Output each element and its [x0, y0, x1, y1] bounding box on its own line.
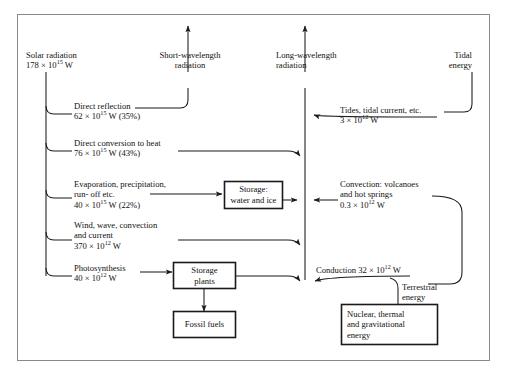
- solar-radiation-value: 178 × 1015 W: [26, 60, 73, 70]
- box-label-storage-water-ice: Storage:water and ice: [225, 182, 282, 208]
- label-convection: Convection: volcanoes and hot springs 0.…: [340, 179, 419, 210]
- conduction-value: Conduction 32 × 1012 W: [316, 265, 401, 275]
- label-evaporation: Evaporation, precipitation, run- off etc…: [74, 179, 166, 210]
- branch-evaporation: [46, 190, 72, 198]
- feed-plants-longwave: [236, 276, 300, 281]
- tidal-trunk: [444, 72, 472, 112]
- direct-conversion-value: 76 × 1015 W (43%): [74, 148, 140, 158]
- label-conduction: Conduction 32 × 1012 W: [316, 265, 401, 275]
- figure-root: Solar radiation 178 × 1015 W Short-wavel…: [0, 0, 507, 390]
- label-photosynthesis: Photosynthesis 40 × 1012 W: [74, 263, 126, 284]
- box-label-nuclear-thermal-grav: Nuclear, thermaland gravitationalenergy: [342, 305, 437, 344]
- label-terrestrial-energy: Terrestrial energy: [402, 282, 437, 303]
- branch-wind-wave: [46, 232, 72, 240]
- box-label-fossil-fuels: Fossil fuels: [174, 312, 235, 337]
- branch-direct-conversion: [46, 143, 72, 151]
- label-direct-conversion-to-heat: Direct conversion to heat 76 × 1015 W (4…: [74, 138, 161, 159]
- conduction-into-longwave: [315, 276, 410, 281]
- label-tides: Tides, tidal current, etc. 3 × 1012 W: [340, 105, 421, 126]
- box-label-storage-plants: Storageplants: [174, 263, 235, 288]
- photosynthesis-value: 40 × 1012 W: [74, 273, 117, 283]
- convection-value: 0.3 × 1012 W: [340, 200, 385, 210]
- short-wave-feed: [135, 88, 188, 108]
- label-wind-wave: Wind, wave, convection and current 370 ×…: [74, 220, 157, 251]
- evaporation-value: 40 × 1015 W (22%): [74, 200, 140, 210]
- label-long-wavelength-radiation: Long-wavelength radiation: [276, 50, 337, 71]
- label-short-wavelength-radiation: Short-wavelength radiation: [148, 50, 232, 71]
- label-solar-radiation: Solar radiation 178 × 1015 W: [26, 50, 77, 71]
- tides-value: 3 × 1012 W: [340, 115, 378, 125]
- wind-wave-value: 370 × 1012 W: [74, 241, 121, 251]
- feed-direct-conversion-longwave: [178, 151, 300, 156]
- branch-photosynthesis: [46, 268, 72, 276]
- convection-loop: [428, 196, 462, 284]
- direct-reflection-value: 62 × 1015 W (35%): [74, 111, 140, 121]
- label-direct-reflection: Direct reflection 62 × 1015 W (35%): [74, 101, 140, 122]
- feed-windwave-longwave: [178, 240, 300, 245]
- branch-direct-reflection: [46, 106, 72, 114]
- label-tidal-energy: Tidal energy: [412, 50, 472, 71]
- terrestrial-riser: [390, 278, 398, 304]
- solar-radiation-name: Solar radiation: [26, 50, 77, 60]
